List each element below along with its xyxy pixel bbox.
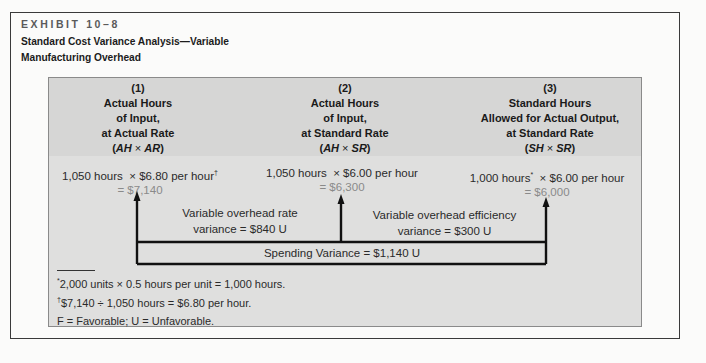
footnote-item: F = Favorable; U = Unfavorable. <box>57 310 285 329</box>
footnote-item: *2,000 units × 0.5 hours per unit = 1,00… <box>57 273 285 292</box>
arrow-up-icon <box>543 197 550 207</box>
efficiency-variance-label: Variable overhead efficiency variance = … <box>352 207 537 239</box>
efficiency-variance-line1: Variable overhead efficiency <box>352 207 537 223</box>
efficiency-variance-line2: variance = $300 U <box>352 223 537 239</box>
footnote-rule <box>57 270 95 271</box>
footnote-item: †$7,140 ÷ 1,050 hours = $6.80 per hour. <box>57 292 285 311</box>
arrow-up-icon <box>338 194 345 204</box>
rate-variance-line2: variance = $840 U <box>150 221 330 237</box>
arrow-up-icon <box>134 191 141 201</box>
rate-variance-label: Variable overhead rate variance = $840 U <box>150 205 330 237</box>
footnotes: *2,000 units × 0.5 hours per unit = 1,00… <box>57 273 285 329</box>
spending-variance-label: Spending Variance = $1,140 U <box>137 243 547 263</box>
rate-variance-line1: Variable overhead rate <box>150 205 330 221</box>
